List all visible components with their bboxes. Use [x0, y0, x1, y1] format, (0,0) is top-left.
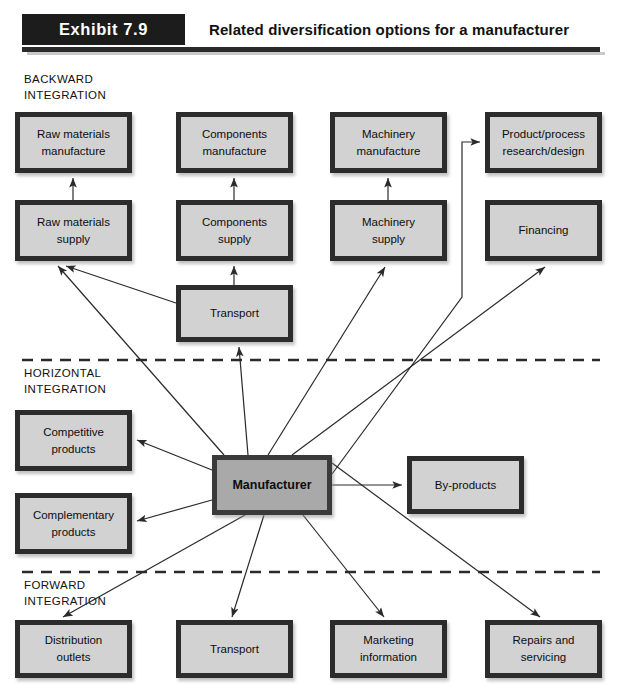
- arrow-manufacturer-to-complementary: [137, 500, 212, 521]
- elbow-manufacturer-to-product-research: [332, 142, 480, 474]
- arrow-manufacturer-to-transport-lower: [232, 515, 264, 617]
- diagram-connector-layer: [0, 0, 617, 696]
- arrow-manufacturer-to-transport-upper: [239, 347, 248, 455]
- node-financing[interactable]: Financing: [485, 200, 602, 261]
- node-label: Components supply: [198, 214, 271, 247]
- node-label: Manufacturer: [228, 476, 315, 494]
- node-machinery-manufacture[interactable]: Machinery manufacture: [330, 112, 447, 173]
- node-label: Product/process research/design: [498, 126, 589, 159]
- node-distribution-outlets[interactable]: Distribution outlets: [15, 620, 132, 678]
- arrow-manufacturer-to-competitive: [137, 440, 212, 470]
- node-label: Distribution outlets: [41, 632, 107, 665]
- node-label: By-products: [431, 477, 500, 494]
- node-label: Complementary products: [29, 507, 118, 540]
- node-transport-upper[interactable]: Transport: [176, 285, 293, 342]
- node-complementary-products[interactable]: Complementary products: [15, 493, 132, 554]
- arrow-manufacturer-to-marketing: [303, 515, 384, 617]
- node-label: Repairs and servicing: [508, 632, 578, 665]
- node-raw-materials-manufacture[interactable]: Raw materials manufacture: [15, 112, 132, 173]
- node-by-products[interactable]: By-products: [407, 456, 524, 514]
- node-marketing-information[interactable]: Marketing information: [330, 620, 447, 678]
- node-label: Financing: [515, 222, 573, 239]
- node-label: Machinery supply: [358, 214, 419, 247]
- node-raw-materials-supply[interactable]: Raw materials supply: [15, 200, 132, 261]
- node-label: Competitive products: [39, 424, 108, 457]
- node-manufacturer[interactable]: Manufacturer: [212, 455, 332, 515]
- node-repairs-and-servicing[interactable]: Repairs and servicing: [485, 620, 602, 678]
- node-label: Raw materials manufacture: [33, 126, 114, 159]
- node-label: Marketing information: [356, 632, 421, 665]
- node-label: Raw materials supply: [33, 214, 114, 247]
- node-competitive-products[interactable]: Competitive products: [15, 410, 132, 471]
- node-label: Transport: [206, 305, 263, 322]
- node-label: Components manufacture: [198, 126, 271, 159]
- node-components-manufacture[interactable]: Components manufacture: [176, 112, 293, 173]
- node-machinery-supply[interactable]: Machinery supply: [330, 200, 447, 261]
- node-label: Machinery manufacture: [353, 126, 425, 159]
- arrow-transport-to-raw-materials-supply: [66, 266, 176, 303]
- node-product-process-research[interactable]: Product/process research/design: [485, 112, 602, 173]
- node-label: Transport: [206, 641, 263, 658]
- node-components-supply[interactable]: Components supply: [176, 200, 293, 261]
- node-transport-lower[interactable]: Transport: [176, 620, 293, 678]
